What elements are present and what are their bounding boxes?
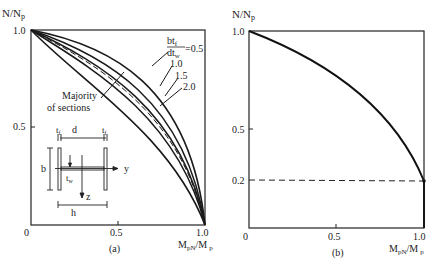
- label-d: d: [72, 124, 77, 135]
- y-tick-1.0-a: 1.0: [13, 25, 26, 36]
- y-tick-0.5-a: 0.5: [13, 121, 26, 132]
- diagram: N/Np 1.0 0.5 0 0.5 1.0 MpN/Mp (a) btf dt…: [0, 0, 448, 272]
- panel-b: N/Np 1.0 0.5 0.2 0 0.5 1.0 MpN/Mp (b): [232, 8, 426, 259]
- label-h: h: [71, 207, 76, 218]
- y-axis-label-a: N/Np: [2, 7, 25, 21]
- label-tf-left: tf: [56, 125, 61, 136]
- x-tick-0.5-a: 0.5: [110, 227, 123, 238]
- ratio-0.5: =0.5: [185, 43, 203, 54]
- caption-a: (a): [109, 243, 120, 255]
- x-tick-0.5-b: 0.5: [328, 231, 341, 242]
- ratio-1.5: 1.5: [175, 70, 188, 81]
- i-section-inset: [47, 134, 118, 208]
- x-tick-0-b: 0: [243, 231, 248, 242]
- curve-point: [422, 179, 426, 183]
- x-tick-0-a: 0: [24, 227, 29, 238]
- design-curve: [249, 31, 424, 228]
- annotation-majority: Majority: [62, 90, 97, 101]
- y-tick-1.0-b: 1.0: [232, 26, 245, 37]
- x-tick-1.0-a: 1.0: [196, 227, 209, 238]
- ratio-2.0: 2.0: [183, 81, 196, 92]
- annotation-of-sections: of sections: [47, 102, 90, 113]
- panel-a: N/Np 1.0 0.5 0 0.5 1.0 MpN/Mp (a) btf dt…: [2, 7, 213, 255]
- y-tick-0.5-b: 0.5: [232, 124, 245, 135]
- dashed-0.2-line: [249, 180, 424, 181]
- caption-b: (b): [332, 247, 344, 259]
- x-axis-label-b: MpN/Mp: [389, 243, 424, 256]
- label-tf-right: tf: [102, 125, 107, 136]
- y-axis-label-b: N/Np: [232, 8, 255, 22]
- label-z: z: [86, 191, 91, 202]
- ratio-1.0: 1.0: [170, 58, 183, 69]
- y-tick-0.2-b: 0.2: [232, 175, 245, 186]
- label-y: y: [124, 163, 129, 174]
- panel-b-frame: [249, 31, 424, 228]
- ratio-label: btf dtw =0.5: [167, 35, 203, 60]
- x-axis-label-a: MpN/Mp: [178, 239, 213, 252]
- label-b: b: [41, 163, 46, 174]
- label-tw: tw: [66, 173, 74, 184]
- x-tick-1.0-b: 1.0: [413, 231, 426, 242]
